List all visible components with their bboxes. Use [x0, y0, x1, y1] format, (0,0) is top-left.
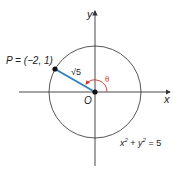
angle-label: θ [105, 74, 109, 84]
y-axis-label: y [86, 8, 94, 20]
diagram-canvas: y x O P = (−2, 1) √5 θ x2 + y2 = 5 [0, 0, 173, 170]
point-p [52, 66, 57, 71]
origin-point [92, 89, 97, 94]
circle-equation: x2 + y2 = 5 [119, 137, 161, 148]
origin-label: O [84, 95, 92, 106]
radius-label: √5 [71, 67, 81, 77]
point-label: P = (−2, 1) [6, 55, 53, 66]
x-axis-label: x [163, 93, 170, 105]
